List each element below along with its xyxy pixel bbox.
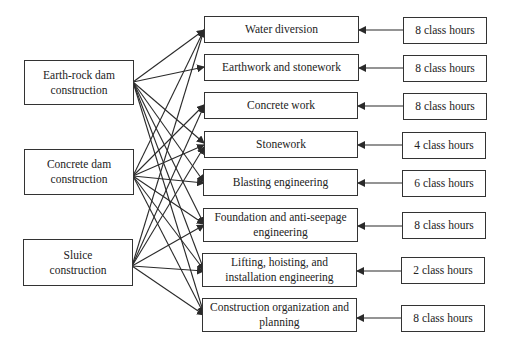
hours-label: 6 class hours xyxy=(414,176,473,191)
course-label-line2: planning xyxy=(210,315,349,330)
course-label: Concrete work xyxy=(247,98,315,113)
hours-box-stonework: 4 class hours xyxy=(402,132,486,159)
hours-label: 8 class hours xyxy=(414,218,473,233)
hours-box-water-diversion: 8 class hours xyxy=(403,17,487,44)
course-box-concrete-work: Concrete work xyxy=(204,92,358,119)
course-label-line1: Construction organization and xyxy=(210,300,349,315)
hours-box-earthwork: 8 class hours xyxy=(403,55,487,82)
source-box-earth-rock-dam: Earth-rock dam construction xyxy=(24,60,134,105)
course-label-line1: Lifting, hoisting, and xyxy=(225,255,333,270)
course-box-lifting-hoisting-installation: Lifting, hoisting, and installation engi… xyxy=(202,253,357,287)
hours-box-blasting: 6 class hours xyxy=(402,170,486,197)
course-label-line2: engineering xyxy=(214,225,346,240)
hours-box-lifting: 2 class hours xyxy=(401,257,485,284)
course-label-line1: Foundation and anti-seepage xyxy=(214,210,346,225)
source-label-line2: construction xyxy=(47,172,111,187)
hours-box-construction-organization: 8 class hours xyxy=(401,305,485,332)
source-label-line1: Sluice xyxy=(50,248,107,263)
source-label-line1: Earth-rock dam xyxy=(43,68,115,83)
hours-label: 8 class hours xyxy=(415,23,474,38)
hours-label: 8 class hours xyxy=(415,99,474,114)
hours-label: 4 class hours xyxy=(414,138,473,153)
source-label-line1: Concrete dam xyxy=(47,157,111,172)
concrete-dam-edges xyxy=(133,30,204,314)
hours-box-foundation: 8 class hours xyxy=(402,212,486,239)
course-structure-diagram: Earth-rock dam construction Concrete dam… xyxy=(0,0,509,351)
course-label: Earthwork and stonework xyxy=(222,60,341,75)
hours-label: 8 class hours xyxy=(413,311,472,326)
source-label-line2: construction xyxy=(43,83,115,98)
hours-box-concrete-work: 8 class hours xyxy=(403,93,487,120)
course-box-water-diversion: Water diversion xyxy=(204,16,359,43)
course-label-line2: installation engineering xyxy=(225,270,333,285)
course-box-blasting-engineering: Blasting engineering xyxy=(203,169,358,196)
course-box-construction-organization: Construction organization and planning xyxy=(202,298,357,332)
source-box-sluice: Sluice construction xyxy=(23,239,133,286)
course-box-stonework: Stonework xyxy=(204,131,358,158)
earth-rock-edges xyxy=(133,30,204,314)
course-label: Blasting engineering xyxy=(233,175,329,190)
hours-edges xyxy=(357,30,403,318)
source-label-line2: construction xyxy=(50,263,107,278)
course-label: Stonework xyxy=(256,137,306,152)
course-box-earthwork-and-stonework: Earthwork and stonework xyxy=(204,54,359,81)
hours-label: 2 class hours xyxy=(413,263,472,278)
course-label: Water diversion xyxy=(245,22,318,37)
hours-label: 8 class hours xyxy=(415,61,474,76)
sluice-edges xyxy=(132,30,204,315)
course-box-foundation-anti-seepage: Foundation and anti-seepage engineering xyxy=(203,208,358,242)
source-box-concrete-dam: Concrete dam construction xyxy=(24,149,134,195)
